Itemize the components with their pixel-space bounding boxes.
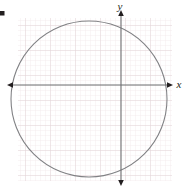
figure-root: x y <box>0 0 189 194</box>
corner-tick-mark <box>0 11 5 16</box>
coordinate-plane-figure: x y <box>0 0 189 194</box>
graph-paper-grid <box>18 18 172 181</box>
x-axis-label: x <box>176 78 182 90</box>
y-axis-label: y <box>117 0 123 12</box>
